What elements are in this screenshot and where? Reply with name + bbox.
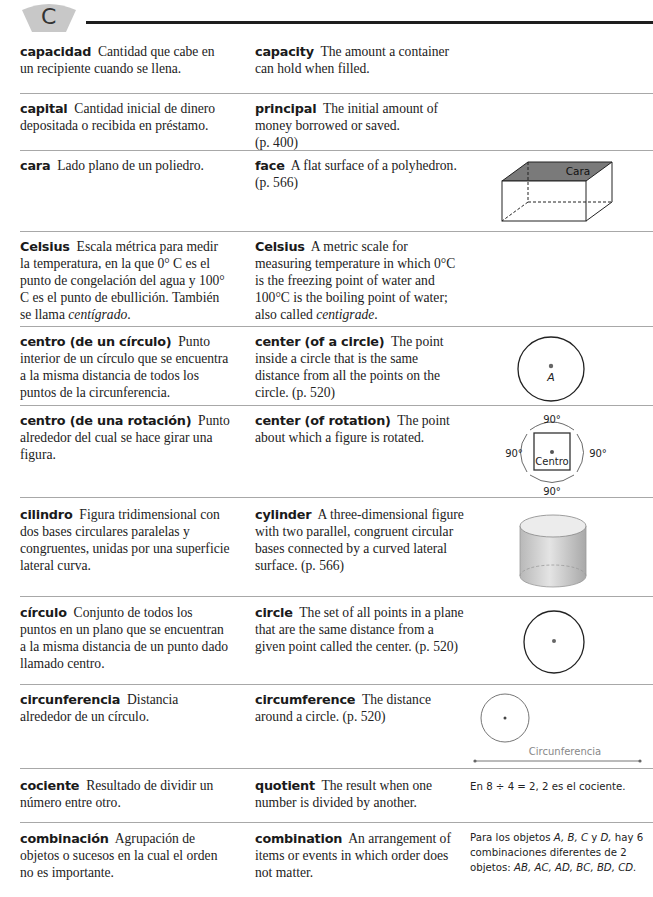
example-text: Para los objetos A, B, C y D, hay 6 comb… [470,830,653,875]
circumference-figure: Circunferencia [470,693,650,765]
spanish-definition: Celsius Escala métrica para medir la tem… [20,238,230,323]
english-term: principal [255,101,316,116]
spanish-definition: circunferencia Distancia alrededor de un… [20,691,230,725]
point-label: A [546,371,555,384]
section-letter: C [41,4,56,29]
example-italic: AB, AC, AD, BC, BD, CD. [514,862,636,873]
divider [20,405,653,406]
figure-label: Cara [566,165,591,177]
spanish-definition: círculo Conjunto de todos los puntos en … [20,604,230,672]
english-definition: combination An arrangement of items or e… [255,830,465,881]
english-definition: center (of a circle) The point inside a … [255,333,465,401]
english-definition: quotient The result when one number is d… [255,777,465,811]
divider [20,684,653,685]
spanish-term: cociente [20,778,79,793]
spanish-definition: capital Cantidad inicial de dinero depos… [20,100,230,134]
divider [20,497,653,498]
english-definition: face A flat surface of a polyhedron. (p.… [255,157,465,191]
english-definition: cylinder A three-dimensional figure with… [255,506,465,574]
spanish-term: círculo [20,605,67,620]
spanish-definition: cilindro Figura tridimensional con dos b… [20,506,230,574]
circumference-label: Circunferencia [529,746,601,757]
spanish-definition: centro (de una rotación) Punto alrededor… [20,412,230,463]
spanish-definition: combinación Agrupación de objetos o suce… [20,830,230,881]
example-italic: A, B, C [554,832,588,843]
spanish-term: capital [20,101,68,116]
divider [20,93,653,94]
english-definition: principal The initial amount of money bo… [255,100,465,151]
english-term: cylinder [255,507,311,522]
english-term: circle [255,605,293,620]
rotation-figure: Centro 90° 90° 90° 90° [500,410,620,496]
center-label: Centro [535,456,568,467]
example-part: y [588,832,601,843]
example-text: En 8 ÷ 4 = 2, 2 es el cociente. [470,779,653,794]
english-term: combination [255,831,342,846]
angle-label-bottom: 90° [543,486,561,496]
rectangular-prism-figure: Cara [500,160,615,225]
spanish-term: cara [20,158,50,173]
english-term: capacity [255,44,314,59]
spanish-italic-term: centígrado [68,307,127,322]
cylinder-figure [518,512,588,590]
spanish-definition: cociente Resultado de dividir un número … [20,777,230,811]
english-term: center (of rotation) [255,413,391,428]
english-definition: circumference The distance around a circ… [255,691,465,725]
english-term: face [255,158,285,173]
spanish-term: centro (de una rotación) [20,413,191,428]
page-reference: (p. 400) [255,135,298,150]
angle-label-left: 90° [505,448,523,459]
angle-label-top: 90° [543,414,561,425]
english-definition: center (of rotation) The point about whi… [255,412,465,446]
divider [20,326,653,327]
english-term: Celsius [255,239,305,254]
english-definition: circle The set of all points in a plane … [255,604,465,655]
example-italic: D, [601,832,612,843]
english-definition: capacity The amount a container can hold… [255,43,465,77]
spanish-definition: cara Lado plano de un poliedro. [20,157,230,174]
english-term: center (of a circle) [255,334,384,349]
punctuation: . [127,307,130,322]
divider [20,231,653,232]
spanish-term: cilindro [20,507,73,522]
divider [20,822,653,823]
punctuation: . [374,307,377,322]
divider [20,596,653,597]
english-italic-term: centigrade [316,307,374,322]
spanish-term: circunferencia [20,692,120,707]
angle-label-right: 90° [589,448,607,459]
english-text: A flat surface of a polyhedron. (p. 566) [255,158,457,190]
header-rule [86,21,653,24]
spanish-definition: centro (de un círculo) Punto interior de… [20,333,230,401]
circle-figure [521,608,587,676]
english-term: circumference [255,692,355,707]
spanish-term: combinación [20,831,109,846]
spanish-term: centro (de un círculo) [20,334,171,349]
english-definition: Celsius A metric scale for measuring tem… [255,238,465,323]
spanish-text: Lado plano de un poliedro. [57,158,204,173]
divider [20,768,653,769]
spanish-term: Celsius [20,239,70,254]
spanish-definition: capacidad Cantidad que cabe en un recipi… [20,43,230,77]
example-part: Para los objetos [470,832,554,843]
english-term: quotient [255,778,315,793]
circle-center-figure: A [515,334,587,404]
spanish-term: capacidad [20,44,91,59]
